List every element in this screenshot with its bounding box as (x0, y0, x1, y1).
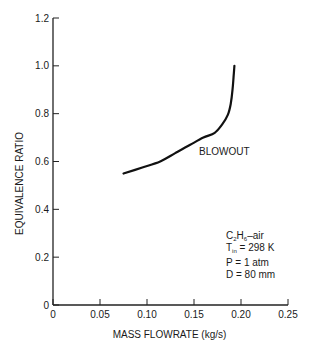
x-tick-label: 0.15 (184, 309, 204, 320)
x-tick-label: 0.05 (90, 309, 110, 320)
y-tick-label: 0.4 (35, 204, 49, 215)
y-tick-label: 0.6 (35, 156, 49, 167)
x-tick-label: 0.25 (278, 309, 298, 320)
blowout-label: BLOWOUT (199, 146, 250, 157)
y-axis-title: EQUIVALENCE RATIO (14, 132, 25, 235)
x-tick-label: 0.10 (137, 309, 157, 320)
y-tick-label: 1.0 (35, 60, 49, 71)
y-tick-label: 0 (43, 300, 49, 311)
x-tick-label: 0.20 (231, 309, 251, 320)
x-tick-label: 0 (50, 309, 56, 320)
blowout-curve (124, 66, 235, 174)
y-tick-label: 0.8 (35, 108, 49, 119)
condition-pressure: P = 1 atm (226, 257, 269, 269)
condition-temperature: Tin = 298 K (226, 242, 274, 257)
y-tick-label: 1.2 (35, 13, 49, 24)
condition-diameter: D = 80 mm (226, 269, 275, 281)
chart-canvas: 00.20.40.60.81.01.200.050.100.150.200.25… (0, 0, 309, 362)
x-axis-title: MASS FLOWRATE (kg/s) (113, 329, 227, 340)
y-tick-label: 0.2 (35, 252, 49, 263)
